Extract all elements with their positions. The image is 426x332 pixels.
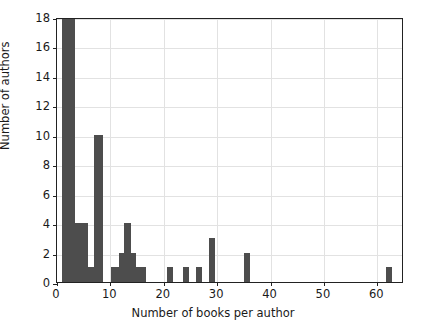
x-axis-tick [217, 282, 218, 286]
y-axis-tick-label: 6 [43, 188, 50, 202]
gridline-vertical [217, 19, 218, 282]
x-axis-tick [164, 282, 165, 286]
gridline-vertical [324, 19, 325, 282]
x-axis-title: Number of books per author [0, 306, 426, 320]
plot-clip [57, 19, 402, 282]
y-axis-tick-label: 18 [35, 11, 50, 25]
y-axis-tick [53, 107, 57, 108]
histogram-bar [209, 238, 215, 282]
histogram-bar [94, 135, 103, 282]
gridline-horizontal [57, 255, 402, 256]
plot-area [56, 18, 403, 283]
gridline-vertical [377, 19, 378, 282]
y-axis-tick [53, 48, 57, 49]
x-axis-tick [324, 282, 325, 286]
gridline-horizontal [57, 166, 402, 167]
x-axis-tick-label: 10 [102, 287, 117, 301]
y-axis-title: Number of authors [0, 42, 12, 150]
y-axis-tick [53, 255, 57, 256]
x-axis-tick [57, 282, 58, 286]
gridline-horizontal [57, 19, 402, 20]
y-axis-tick-label: 2 [43, 247, 50, 261]
x-axis-tick-label: 30 [209, 287, 224, 301]
histogram-bar [196, 267, 202, 282]
y-axis-tick-label: 8 [43, 158, 50, 172]
histogram-figure: 024681012141618 0102030405060 Number of … [0, 0, 426, 332]
histogram-bar [124, 223, 131, 282]
y-axis-tick [53, 78, 57, 79]
x-axis-tick [377, 282, 378, 286]
histogram-bar [386, 267, 392, 282]
histogram-bar [167, 267, 173, 282]
gridline-horizontal [57, 225, 402, 226]
gridline-horizontal [57, 137, 402, 138]
y-axis-tick-label: 16 [35, 40, 50, 54]
gridline-vertical [271, 19, 272, 282]
x-axis-tick-label: 60 [369, 287, 384, 301]
x-axis-tick-label: 20 [155, 287, 170, 301]
y-axis-tick [53, 196, 57, 197]
x-axis-tick-label: 0 [52, 287, 59, 301]
gridline-vertical [110, 19, 111, 282]
y-axis-tick [53, 225, 57, 226]
x-axis-labels: 0102030405060 [56, 287, 403, 303]
histogram-bar [75, 223, 88, 282]
gridline-horizontal [57, 78, 402, 79]
y-axis-tick [53, 137, 57, 138]
y-axis-tick-label: 10 [35, 129, 50, 143]
gridline-horizontal [57, 48, 402, 49]
histogram-bar [136, 267, 146, 282]
x-axis-tick-label: 50 [316, 287, 331, 301]
y-axis-tick [53, 166, 57, 167]
y-axis-tick-label: 0 [43, 276, 50, 290]
histogram-bar [62, 19, 75, 282]
gridline-horizontal [57, 196, 402, 197]
histogram-bar [111, 267, 118, 282]
x-axis-tick [110, 282, 111, 286]
histogram-bar [244, 253, 250, 282]
y-axis-tick [53, 19, 57, 20]
x-axis-tick [271, 282, 272, 286]
gridline-vertical [164, 19, 165, 282]
x-axis-tick-label: 40 [262, 287, 277, 301]
y-axis-tick-label: 14 [35, 70, 50, 84]
gridline-horizontal [57, 107, 402, 108]
y-axis-tick-label: 12 [35, 99, 50, 113]
y-axis-tick-label: 4 [43, 217, 50, 231]
histogram-bar [183, 267, 189, 282]
